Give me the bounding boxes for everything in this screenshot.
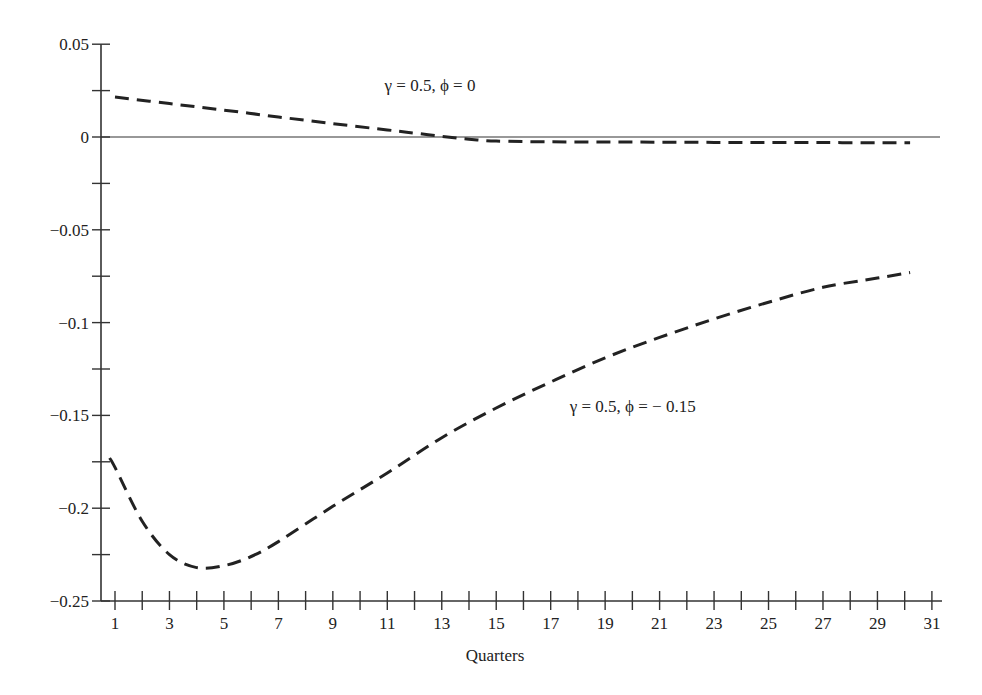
curve-label-0: γ = 0.5, ϕ = 0	[384, 76, 476, 95]
y-tick-label: 0.05	[59, 35, 89, 54]
x-tick-label: 23	[706, 614, 723, 633]
y-tick-label: 0	[81, 128, 90, 147]
x-tick-label: 7	[274, 614, 283, 633]
x-tick-label: 29	[869, 614, 886, 633]
x-tick-label: 11	[379, 614, 395, 633]
y-tick-label: −0.1	[58, 314, 89, 333]
line-chart: 0.050−0.05−0.1−0.15−0.2−0.25 13579111315…	[0, 0, 982, 695]
y-tick-label: −0.15	[50, 406, 89, 425]
x-tick-label: 9	[329, 614, 338, 633]
y-axis: 0.050−0.05−0.1−0.15−0.2−0.25	[50, 35, 110, 611]
series-line-0	[115, 97, 910, 143]
x-axis-title: Quarters	[466, 646, 525, 665]
curve-annotations: γ = 0.5, ϕ = 0γ = 0.5, ϕ = − 0.15	[384, 76, 696, 416]
y-tick-label: −0.2	[58, 499, 89, 518]
x-tick-label: 31	[923, 614, 940, 633]
x-tick-label: 3	[165, 614, 174, 633]
series-group	[110, 97, 911, 568]
series-line-1	[110, 273, 911, 569]
x-tick-label: 15	[488, 614, 505, 633]
y-tick-label: −0.25	[50, 592, 89, 611]
x-tick-label: 21	[651, 614, 668, 633]
x-tick-label: 17	[542, 614, 560, 633]
x-tick-label: 25	[760, 614, 777, 633]
y-tick-label: −0.05	[50, 221, 89, 240]
x-tick-label: 1	[111, 614, 120, 633]
x-tick-label: 27	[814, 614, 832, 633]
x-axis: 135791113151719212325272931	[101, 591, 942, 633]
curve-label-1: γ = 0.5, ϕ = − 0.15	[569, 397, 696, 416]
x-tick-label: 5	[220, 614, 229, 633]
x-tick-label: 13	[433, 614, 450, 633]
x-tick-label: 19	[597, 614, 614, 633]
